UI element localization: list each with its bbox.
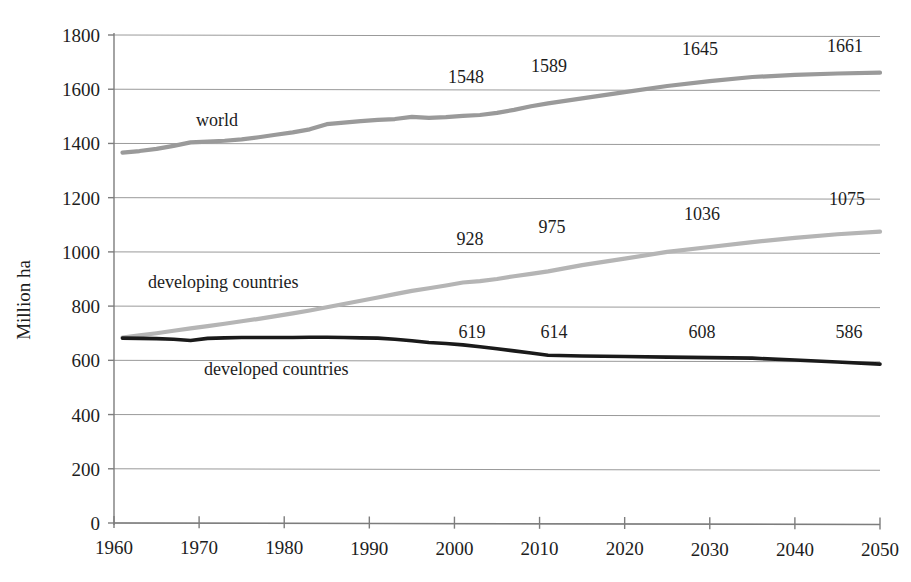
gridline-y-1600 [114, 89, 880, 91]
data-label-developed-countries-2011: 619 [459, 322, 486, 342]
y-tick-label-1200: 1200 [62, 188, 100, 209]
y-tick-label-1600: 1600 [62, 79, 100, 100]
gridline-y-1200 [114, 198, 880, 200]
gridline-y-800 [114, 306, 880, 308]
gridline-y-1000 [114, 252, 880, 254]
data-label-developed-countries-2035: 608 [689, 322, 716, 342]
y-tick-label-1400: 1400 [62, 133, 100, 154]
y-axis-title: Million ha [13, 260, 34, 340]
axis-titles-group: Million ha [13, 260, 34, 340]
series-label-developing-countries: developing countries [148, 272, 298, 292]
y-tick-label-1000: 1000 [62, 242, 100, 263]
data-label-world-2050: 1661 [827, 36, 863, 56]
x-tick-label-1960: 1960 [95, 537, 133, 558]
x-axis-line [114, 523, 880, 525]
data-label-developing-countries-2020: 975 [539, 217, 566, 237]
x-tick-label-2030: 2030 [691, 539, 729, 560]
y-axis-tick-labels: 020040060080010001200140016001800 [62, 25, 100, 534]
x-tick-label-1970: 1970 [180, 537, 218, 558]
x-tick-label-1980: 1980 [265, 537, 303, 558]
data-point-labels: 1548158916451661928975103610756196146085… [448, 36, 865, 342]
x-tick-label-2050: 2050 [861, 539, 899, 560]
line-chart: 020040060080010001200140016001800 196019… [0, 0, 911, 582]
data-label-developed-countries-2020: 614 [541, 322, 568, 342]
data-label-world-2011: 1548 [448, 67, 484, 87]
data-label-developing-countries-2050: 1075 [829, 189, 865, 209]
x-axis-tick-labels: 1960197019801990200020102020203020402050 [95, 537, 899, 560]
data-label-world-2020: 1589 [531, 56, 567, 76]
chart-container: 020040060080010001200140016001800 196019… [0, 0, 911, 582]
y-tick-label-200: 200 [72, 459, 101, 480]
series-label-developed-countries: developed countries [204, 359, 348, 379]
data-label-world-2035: 1645 [682, 39, 718, 59]
x-tick-label-2010: 2010 [521, 538, 559, 559]
gridline-y-1400 [114, 143, 880, 145]
gridline-y-1800 [114, 35, 880, 37]
x-tick-label-2000: 2000 [435, 538, 473, 559]
data-label-developing-countries-2035: 1036 [684, 204, 720, 224]
y-tick-label-0: 0 [91, 513, 101, 534]
y-tick-label-400: 400 [72, 405, 101, 426]
gridline-y-400 [114, 415, 880, 417]
gridline-y-200 [114, 469, 880, 471]
x-tick-label-2020: 2020 [606, 538, 644, 559]
y-tick-label-600: 600 [72, 350, 101, 371]
x-tick-label-2040: 2040 [776, 539, 814, 560]
x-tick-label-1990: 1990 [350, 538, 388, 559]
y-tick-label-800: 800 [72, 296, 101, 317]
data-label-developing-countries-2011: 928 [457, 229, 484, 249]
data-label-developed-countries-2050: 586 [836, 322, 863, 342]
y-tick-label-1800: 1800 [62, 25, 100, 46]
series-label-world: world [196, 110, 238, 130]
